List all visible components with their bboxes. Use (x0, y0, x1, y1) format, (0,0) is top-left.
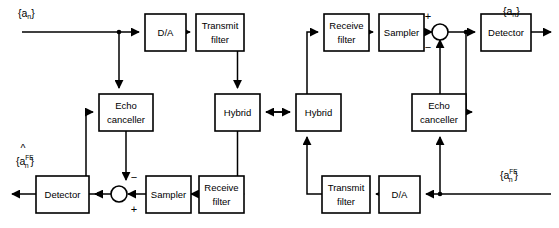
wire-layer (12, 30, 551, 197)
signal-hat-output-far: ^ (21, 142, 26, 154)
block-detector-left[interactable]: Detector (36, 176, 89, 213)
block-detector-right[interactable]: Detector (481, 14, 531, 51)
block-hybrid-right[interactable]: Hybrid (296, 94, 341, 131)
summer-left-sign-plus: + (131, 203, 137, 215)
block-echo-canceller-left[interactable]: Echo canceller (99, 94, 153, 131)
block-detector-left-label: Detector (45, 189, 81, 200)
block-hybrid-right-label: Hybrid (305, 107, 332, 118)
block-da-left[interactable]: D/A (145, 14, 186, 51)
block-receive-filter-left-label-line1: Receive (204, 182, 238, 193)
block-da-right[interactable]: D/A (379, 176, 420, 213)
block-transmit-filter-right-label-line2: filter (337, 196, 355, 207)
block-echo-canceller-right[interactable]: Echo canceller (412, 94, 466, 131)
block-layer: D/A Transmit filter Echo canceller Hybri… (36, 14, 531, 213)
block-receive-filter-right-label-line1: Receive (329, 20, 363, 31)
block-detector-right-label: Detector (488, 27, 524, 38)
block-diagram-canvas: D/A Transmit filter Echo canceller Hybri… (0, 0, 559, 228)
block-transmit-filter-left-label-line1: Transmit (202, 20, 239, 31)
echo-canceller-block-diagram: D/A Transmit filter Echo canceller Hybri… (0, 0, 559, 228)
block-receive-filter-left[interactable]: Receive filter (199, 176, 244, 213)
wire-txfilter-to-hybrid-right (307, 137, 322, 194)
block-da-left-label: D/A (158, 27, 175, 38)
summer-right-sign-minus: − (425, 41, 431, 53)
summer-left-sign-minus: − (131, 171, 137, 183)
block-transmit-filter-right[interactable]: Transmit filter (322, 176, 370, 213)
signal-label-output-near: {an} ^ (503, 0, 520, 18)
signal-label-input-far: {aFEn} (500, 168, 519, 183)
block-echo-canceller-left-label-line2: canceller (107, 114, 145, 125)
signal-hat-output-near: ^ (509, 0, 514, 5)
block-receive-filter-left-label-line2: filter (213, 196, 231, 207)
block-hybrid-left-label: Hybrid (224, 107, 251, 118)
block-transmit-filter-left-label-line2: filter (211, 34, 229, 45)
summing-junction-left[interactable]: − + (111, 171, 137, 215)
block-sampler-right-label: Sampler (384, 27, 419, 38)
block-sampler-left-label: Sampler (151, 189, 186, 200)
block-da-right-label: D/A (392, 189, 409, 200)
block-receive-filter-right[interactable]: Receive filter (324, 14, 369, 51)
wire-error-feedback-right (466, 32, 472, 112)
block-sampler-left[interactable]: Sampler (146, 176, 191, 213)
svg-text:{aFEn}: {aFEn} (16, 154, 35, 169)
block-echo-canceller-left-label-line1: Echo (115, 100, 137, 111)
block-transmit-filter-left[interactable]: Transmit filter (196, 14, 244, 51)
block-echo-canceller-right-label-line2: canceller (420, 114, 458, 125)
wire-hybrid-to-rxfilter-right (307, 32, 318, 94)
signal-label-output-far: {aFEn} ^ (16, 142, 35, 169)
block-sampler-right[interactable]: Sampler (379, 14, 424, 51)
block-transmit-filter-right-label-line1: Transmit (328, 182, 365, 193)
block-receive-filter-right-label-line2: filter (338, 34, 356, 45)
block-echo-canceller-right-label-line1: Echo (428, 100, 450, 111)
block-hybrid-left[interactable]: Hybrid (215, 94, 260, 131)
summer-right-sign-plus: + (425, 10, 431, 22)
signal-label-input-near: {an} (18, 7, 35, 20)
svg-text:{an}: {an} (503, 5, 520, 18)
